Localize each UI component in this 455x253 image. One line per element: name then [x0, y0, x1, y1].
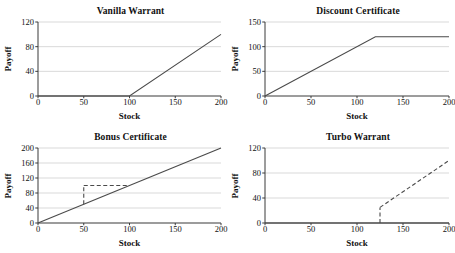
x-tick-label: 50	[307, 97, 316, 107]
y-tick-label: 120	[21, 173, 34, 183]
chart-title: Vanilla Warrant	[38, 6, 223, 16]
x-tick-label: 100	[351, 97, 364, 107]
y-tick-label: 100	[248, 42, 261, 52]
x-tick-label: 150	[397, 224, 410, 234]
y-axis-ticks: 050100150	[239, 22, 264, 96]
y-tick-label: 80	[253, 168, 262, 178]
y-tick-label: 80	[26, 42, 35, 52]
x-tick-label: 200	[215, 97, 228, 107]
x-axis-ticks: 050100150200	[38, 97, 221, 109]
x-tick-label: 200	[215, 224, 228, 234]
x-tick-label: 50	[80, 97, 89, 107]
y-tick-label: 160	[21, 158, 34, 168]
x-tick-label: 50	[80, 224, 89, 234]
y-tick-label: 120	[248, 143, 261, 153]
x-tick-label: 0	[36, 97, 40, 107]
plot-area	[265, 22, 449, 96]
x-axis-ticks: 050100150200	[265, 224, 449, 236]
plot-area	[265, 148, 449, 223]
x-axis-label: Stock	[38, 111, 221, 121]
series-line-payoff	[38, 34, 221, 96]
x-tick-label: 100	[123, 224, 136, 234]
x-tick-label: 100	[351, 224, 364, 234]
y-axis-ticks: 04080120	[239, 148, 264, 223]
y-tick-label: 0	[257, 91, 261, 101]
chart-panel-turbo-warrant: Turbo Warrant Payoff 04080120 0501001502…	[227, 126, 455, 253]
plot-svg	[265, 22, 449, 96]
x-axis-ticks: 050100150200	[265, 97, 449, 109]
x-tick-label: 150	[397, 97, 410, 107]
y-tick-label: 40	[26, 203, 35, 213]
y-tick-label: 0	[30, 218, 34, 228]
plot-svg	[38, 148, 221, 223]
x-tick-label: 50	[307, 224, 316, 234]
y-tick-label: 40	[253, 193, 262, 203]
plot-svg	[265, 148, 449, 223]
x-tick-label: 100	[123, 97, 136, 107]
x-tick-label: 200	[443, 224, 455, 234]
series-line-turbo-payoff	[380, 161, 449, 208]
y-tick-label: 150	[248, 17, 261, 27]
chart-title: Discount Certificate	[265, 6, 451, 16]
chart-panel-discount-certificate: Discount Certificate Payoff 050100150 05…	[227, 0, 455, 126]
x-tick-label: 0	[263, 97, 267, 107]
x-tick-label: 150	[169, 97, 182, 107]
y-tick-label: 50	[253, 66, 262, 76]
plot-area	[38, 22, 221, 96]
plot-svg	[38, 22, 221, 96]
series-line-payoff	[265, 37, 449, 96]
y-tick-label: 0	[257, 218, 261, 228]
y-axis-ticks: 04080120160200	[12, 148, 37, 223]
y-tick-label: 40	[26, 66, 35, 76]
x-tick-label: 0	[36, 224, 40, 234]
y-tick-label: 120	[21, 17, 34, 27]
y-axis-ticks: 04080120	[12, 22, 37, 96]
x-tick-label: 0	[263, 224, 267, 234]
chart-title: Turbo Warrant	[265, 132, 451, 142]
y-tick-label: 0	[30, 91, 34, 101]
x-axis-ticks: 050100150200	[38, 224, 221, 236]
plot-area	[38, 148, 221, 223]
x-tick-label: 200	[443, 97, 455, 107]
y-tick-label: 200	[21, 143, 34, 153]
x-tick-label: 150	[169, 224, 182, 234]
x-axis-label: Stock	[38, 238, 221, 248]
y-tick-label: 80	[26, 188, 35, 198]
chart-panel-vanilla-warrant: Vanilla Warrant Payoff 04080120 05010015…	[0, 0, 227, 126]
chart-title: Bonus Certificate	[38, 132, 223, 142]
x-axis-label: Stock	[265, 238, 449, 248]
x-axis-label: Stock	[265, 111, 449, 121]
chart-panel-bonus-certificate: Bonus Certificate Payoff 04080120160200 …	[0, 126, 227, 253]
figure-panel-grid: Vanilla Warrant Payoff 04080120 05010015…	[0, 0, 455, 253]
